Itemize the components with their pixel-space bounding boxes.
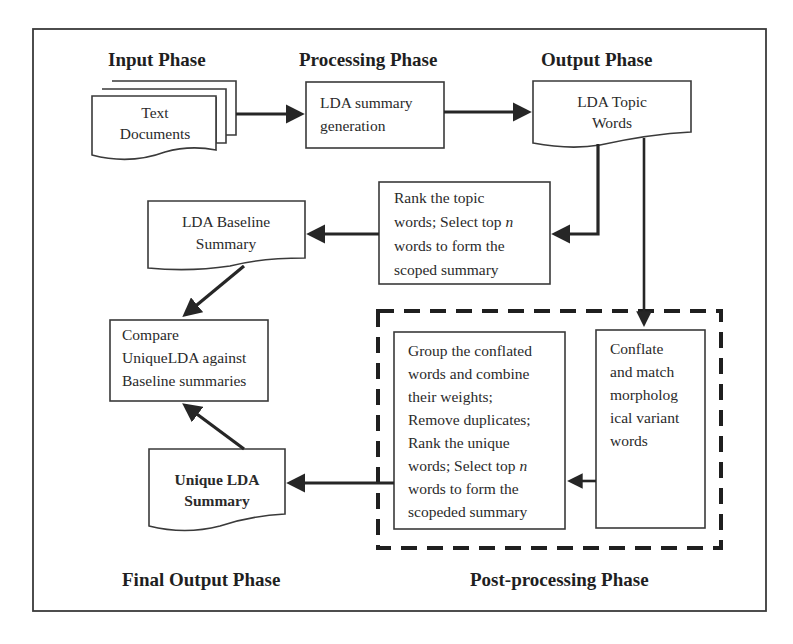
node-text: Group the conflated: [408, 342, 532, 359]
node-text: generation: [320, 117, 386, 134]
node-unique-lda-summary: Unique LDA Summary: [149, 449, 285, 531]
node-text: words and combine: [408, 365, 530, 382]
node-conflate-match: Conflate and match morpholog ical varian…: [596, 330, 705, 528]
node-text: Text: [141, 104, 169, 121]
arrow-topic-words-to-rank: [556, 144, 598, 234]
node-text: Compare: [122, 326, 179, 343]
node-text: LDA summary: [320, 94, 413, 111]
node-text: scoped summary: [394, 261, 499, 278]
node-text: their weights;: [408, 388, 493, 405]
node-text: Rank the topic: [394, 189, 485, 206]
node-lda-baseline-summary: LDA Baseline Summary: [148, 201, 305, 270]
document-shape: [149, 449, 285, 531]
phase-label-output: Output Phase: [541, 49, 652, 70]
node-text: words: [610, 432, 648, 449]
node-text-documents: Text Documents: [92, 81, 236, 159]
phase-label-post-processing: Post-processing Phase: [470, 569, 649, 590]
node-text: words to form the: [394, 237, 505, 254]
phase-label-final-output: Final Output Phase: [122, 569, 280, 590]
node-text: Baseline summaries: [122, 372, 246, 389]
process-box: [306, 82, 444, 148]
node-text: scopeded summary: [408, 503, 527, 520]
node-text: UniqueLDA against: [122, 349, 247, 366]
node-text-line: words; Select top n: [408, 457, 528, 474]
variable-n: n: [520, 457, 528, 474]
node-text: Remove duplicates;: [408, 411, 531, 428]
node-text: words; Select top: [394, 213, 506, 230]
node-text: words; Select top: [408, 457, 520, 474]
arrow-unique-to-compare: [186, 406, 244, 449]
variable-n: n: [506, 213, 514, 230]
node-text: Unique LDA: [175, 471, 261, 488]
node-text: morpholog: [610, 386, 678, 403]
node-text: Documents: [120, 125, 191, 142]
node-text: ical variant: [610, 409, 680, 426]
node-group-conflated: Group the conflated words and combine th…: [394, 332, 565, 529]
node-compare: Compare UniqueLDA against Baseline summa…: [110, 320, 268, 401]
arrow-baseline-to-compare: [186, 266, 244, 314]
process-box: [596, 330, 705, 528]
node-lda-topic-words: LDA Topic Words: [533, 81, 691, 147]
process-box: [394, 332, 565, 529]
phase-label-input: Input Phase: [108, 49, 206, 70]
node-text: Conflate: [610, 340, 663, 357]
phase-label-processing: Processing Phase: [299, 49, 437, 70]
node-rank-topic-words: Rank the topic words; Select top n words…: [379, 182, 550, 284]
node-text-line: words; Select top n: [394, 213, 514, 230]
node-text: and match: [610, 363, 674, 380]
node-text: Summary: [184, 492, 250, 509]
node-text: LDA Baseline: [182, 213, 270, 230]
node-text: LDA Topic: [577, 93, 647, 110]
node-text: Summary: [196, 235, 257, 252]
node-lda-summary-generation: LDA summary generation: [306, 82, 444, 148]
node-text: Words: [592, 114, 632, 131]
node-text: Rank the unique: [408, 434, 510, 451]
lda-flow-diagram: Input Phase Processing Phase Output Phas…: [0, 0, 793, 644]
node-text: words to form the: [408, 480, 519, 497]
